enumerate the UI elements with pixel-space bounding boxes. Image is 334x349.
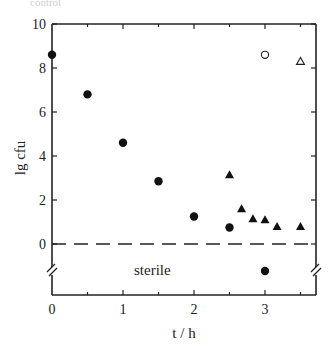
y-axis-label: lg cfu xyxy=(12,140,28,175)
y-tick-label: 10 xyxy=(32,17,46,32)
x-tick-label: 2 xyxy=(191,302,198,317)
filled-circle-marker xyxy=(48,51,56,59)
axis-break-marks xyxy=(47,264,321,276)
filled-triangle-marker xyxy=(225,170,234,178)
y-tick-label: 8 xyxy=(39,61,46,76)
y-tick-label: 0 xyxy=(39,237,46,252)
filled-triangle-marker xyxy=(248,214,257,222)
plot-frame xyxy=(52,24,316,295)
filled-circle-marker xyxy=(190,212,198,220)
filled-triangle-marker xyxy=(237,204,246,212)
x-tick-labels: 0123 xyxy=(49,302,269,317)
axis-ticks xyxy=(52,24,316,295)
data-points xyxy=(48,51,305,276)
scatter-chart: control 0123 0246810 sterile t / h lg cf… xyxy=(0,0,334,349)
filled-triangle-marker xyxy=(261,215,270,223)
y-tick-labels: 0246810 xyxy=(32,17,46,252)
x-tick-label: 3 xyxy=(262,302,269,317)
filled-triangle-marker xyxy=(273,222,282,230)
filled-triangle-marker xyxy=(296,222,305,230)
x-axis-label: t / h xyxy=(172,325,196,341)
x-tick-label: 0 xyxy=(49,302,56,317)
x-tick-label: 1 xyxy=(120,302,127,317)
y-tick-label: 4 xyxy=(39,149,46,164)
y-tick-label: 6 xyxy=(39,105,46,120)
filled-circle-marker xyxy=(83,90,91,98)
filled-circle-marker xyxy=(119,139,127,147)
sterile-label: sterile xyxy=(134,262,171,278)
filled-circle-marker xyxy=(154,177,162,185)
open-circle-marker xyxy=(261,51,268,58)
open-triangle-marker xyxy=(297,57,305,64)
filled-circle-marker xyxy=(225,223,233,231)
cut-off-caption: control xyxy=(30,0,61,8)
filled-circle-marker xyxy=(261,267,269,275)
y-tick-label: 2 xyxy=(39,193,46,208)
